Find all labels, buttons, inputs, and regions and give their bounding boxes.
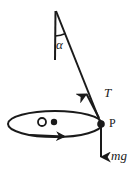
physics-diagram: α T P mg — [0, 0, 134, 174]
bob-label: P — [109, 117, 116, 129]
pendulum-bob — [97, 120, 105, 128]
tension-label: T — [104, 86, 111, 99]
angle-arc — [55, 34, 65, 37]
weight-label: mg — [111, 149, 127, 162]
circle-center-marker — [51, 119, 57, 125]
angle-label: α — [56, 38, 63, 51]
axis-point-marker — [38, 118, 46, 126]
